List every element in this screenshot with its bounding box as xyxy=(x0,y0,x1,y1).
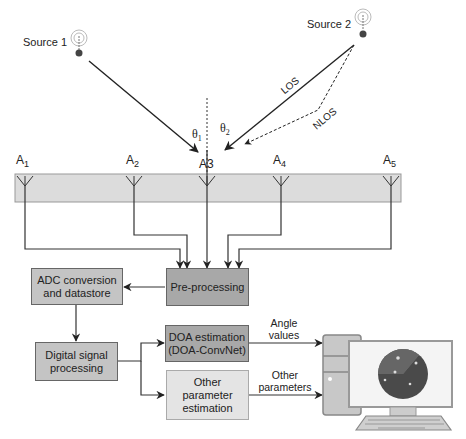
angle-values-label: Angle values xyxy=(264,317,304,341)
source-1-antenna-icon xyxy=(71,30,87,57)
dsp-to-doa-arrow xyxy=(118,343,164,361)
los-ray xyxy=(225,45,354,150)
antenna-label-a1: A1 xyxy=(16,153,29,169)
dsp-to-other-arrow xyxy=(141,361,164,395)
antenna-label-a4: A4 xyxy=(273,153,286,169)
adc-block: ADC conversion and datastore xyxy=(31,268,123,305)
preprocessing-block: Pre-processing xyxy=(166,268,249,306)
source-1-label: Source 1 xyxy=(23,36,67,48)
source-2-antenna-icon xyxy=(355,9,371,38)
computer-icon xyxy=(323,335,452,430)
dsp-block: Digital signal processing xyxy=(35,342,118,381)
other-estimation-block: Other parameter estimation xyxy=(166,370,249,420)
antenna-array-bar xyxy=(15,174,401,202)
antenna-label-a3: A3 xyxy=(199,157,214,171)
source-1-ray xyxy=(89,61,198,152)
antenna-label-a5: A5 xyxy=(383,153,396,169)
theta-1-label: θ1 xyxy=(192,127,202,143)
doa-block: DOA estimation (DOA-ConvNet) xyxy=(165,325,249,362)
source-2-label: Source 2 xyxy=(307,18,351,30)
theta-2-label: θ2 xyxy=(220,121,230,137)
antenna-label-a2: A2 xyxy=(126,153,139,169)
nlos-ray xyxy=(245,45,354,144)
other-parameters-label: Other parameters xyxy=(250,369,320,393)
